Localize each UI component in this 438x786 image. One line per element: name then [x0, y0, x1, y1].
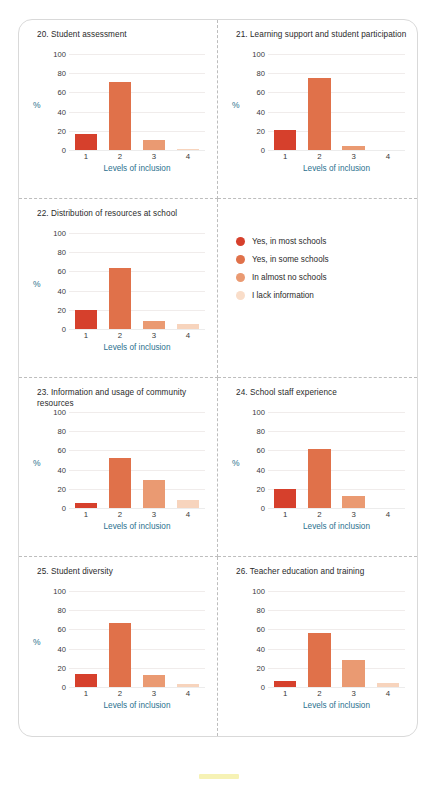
bar[interactable] [274, 681, 297, 687]
y-axis: 020406080100 [46, 233, 66, 329]
y-axis-tick-label: 20 [257, 484, 265, 493]
bar-slot [171, 54, 205, 150]
bottom-highlight-mark [199, 774, 239, 779]
bar[interactable] [177, 684, 199, 687]
bars-container [268, 54, 405, 150]
y-axis-tick-label: 40 [257, 107, 265, 116]
x-axis-baseline [268, 150, 405, 151]
x-axis-tick-label: 4 [171, 152, 205, 161]
bar[interactable] [177, 500, 199, 508]
legend-item: In almost no schools [236, 273, 409, 282]
x-axis-baseline [69, 329, 205, 330]
y-axis-tick-label: 0 [62, 504, 66, 513]
bar[interactable] [109, 623, 131, 687]
bar[interactable] [308, 633, 331, 687]
y-axis-tick-label: 40 [58, 107, 66, 116]
y-axis-tick-label: 40 [58, 644, 66, 653]
y-axis-tick-label: 60 [58, 625, 66, 634]
y-axis: 020406080100 [245, 412, 265, 508]
bar[interactable] [377, 683, 400, 687]
bar[interactable] [75, 503, 97, 508]
y-axis-tick-label: 100 [53, 408, 66, 417]
y-axis-tick-label: 60 [257, 446, 265, 455]
bar[interactable] [143, 321, 165, 329]
bar[interactable] [143, 480, 165, 508]
chart-panel-26: 26. Teacher education and training 02040… [218, 557, 417, 736]
bar-slot [268, 591, 302, 687]
y-axis-tick-label: 0 [261, 683, 265, 692]
y-axis-tick-label: 100 [252, 408, 265, 417]
chart-panel-21: 21. Learning support and student partici… [218, 20, 417, 199]
legend-item: Yes, in most schools [236, 237, 409, 246]
y-axis-unit-label: % [33, 279, 41, 289]
x-axis-title: Levels of inclusion [69, 701, 205, 710]
y-axis-tick-label: 20 [58, 663, 66, 672]
bar-slot [69, 233, 103, 329]
bar[interactable] [75, 310, 97, 329]
x-axis-baseline [69, 150, 205, 151]
bar-slot [137, 54, 171, 150]
bar[interactable] [342, 146, 365, 150]
x-axis-tick-label: 2 [103, 510, 137, 519]
bars-container [69, 233, 205, 329]
bar[interactable] [109, 268, 131, 329]
bar[interactable] [342, 496, 365, 508]
bar[interactable] [308, 449, 331, 508]
x-axis-tick-label: 3 [337, 689, 371, 698]
y-axis-tick-label: 80 [58, 606, 66, 615]
y-axis: 020406080100 [245, 591, 265, 687]
bar[interactable] [177, 324, 199, 329]
x-axis-tick-label: 1 [268, 510, 302, 519]
y-axis-tick-label: 100 [53, 50, 66, 59]
legend-item-label: Yes, in most schools [252, 237, 326, 246]
bar[interactable] [177, 149, 199, 150]
bar[interactable] [274, 489, 297, 508]
chart-panel-20: 20. Student assessment %0204060801001234… [19, 20, 218, 199]
legend-item-label: Yes, in some schools [252, 255, 329, 264]
bars-container [268, 591, 405, 687]
y-axis-tick-label: 40 [257, 465, 265, 474]
y-axis-tick-label: 20 [58, 126, 66, 135]
x-axis-tick-label: 4 [371, 152, 405, 161]
chart-panel-22: 22. Distribution of resources at school … [19, 199, 218, 378]
x-axis-title: Levels of inclusion [268, 164, 405, 173]
bar[interactable] [143, 140, 165, 150]
y-axis-tick-label: 100 [252, 50, 265, 59]
legend-item-label: In almost no schools [252, 273, 327, 282]
bar[interactable] [75, 674, 97, 687]
bar[interactable] [109, 82, 131, 150]
y-axis-tick-label: 40 [257, 644, 265, 653]
bar[interactable] [75, 134, 97, 150]
bar[interactable] [342, 660, 365, 687]
x-axis-tick-label: 4 [371, 510, 405, 519]
bar[interactable] [308, 78, 331, 150]
y-axis-tick-label: 60 [257, 625, 265, 634]
plot-area-25: %0204060801001234Levels of inclusion [29, 591, 209, 709]
bar-slot [371, 54, 405, 150]
bar[interactable] [274, 130, 297, 150]
bar-slot [103, 54, 137, 150]
x-axis-tick-label: 3 [137, 689, 171, 698]
bar[interactable] [143, 675, 165, 687]
bar-slot [137, 591, 171, 687]
x-axis-title: Levels of inclusion [268, 522, 405, 531]
x-axis-title: Levels of inclusion [69, 522, 205, 531]
x-axis-baseline [69, 687, 205, 688]
y-axis-tick-label: 80 [58, 248, 66, 257]
x-axis-tick-label: 3 [137, 331, 171, 340]
y-axis-tick-label: 80 [257, 69, 265, 78]
bars-container [69, 412, 205, 508]
bars-container [69, 54, 205, 150]
x-axis: 1234 [69, 152, 205, 161]
bar-slot [302, 591, 336, 687]
x-axis-tick-label: 4 [171, 510, 205, 519]
bar-slot [268, 412, 302, 508]
x-axis-tick-label: 2 [103, 152, 137, 161]
y-axis-tick-label: 80 [257, 427, 265, 436]
y-axis-tick-label: 80 [257, 606, 265, 615]
y-axis-unit-label: % [33, 637, 41, 647]
bar[interactable] [109, 458, 131, 508]
plot-area-21: %0204060801001234Levels of inclusion [228, 54, 409, 172]
x-axis-baseline [69, 508, 205, 509]
y-axis-unit-label: % [33, 100, 41, 110]
